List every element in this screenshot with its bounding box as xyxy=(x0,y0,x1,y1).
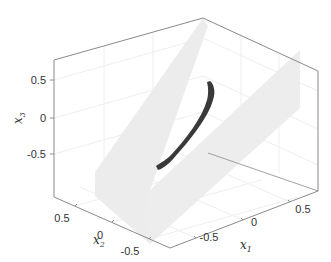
x1-tick--0.5: -0.5 xyxy=(200,231,219,243)
x2-tick--0.5: -0.5 xyxy=(121,245,140,257)
x1-axis-label: x1 xyxy=(240,238,252,254)
x2-axis-label: x2 xyxy=(93,233,105,249)
x1-tick-0: 0 xyxy=(251,216,257,228)
x2-tick-0.5: 0.5 xyxy=(54,212,69,224)
x3-axis-label: x3 xyxy=(11,112,27,124)
svg-text:x3: x3 xyxy=(11,112,27,124)
x1-tick-0.5: 0.5 xyxy=(295,203,310,215)
x3-tick-0: 0 xyxy=(40,112,46,124)
x3-tick-0.5: 0.5 xyxy=(31,74,46,86)
3d-surface-plot: 0.5 0 -0.5 0.5 0 -0.5 -0.5 0 0.5 x3 x2 x… xyxy=(0,0,331,262)
x3-tick--0.5: -0.5 xyxy=(27,148,46,160)
